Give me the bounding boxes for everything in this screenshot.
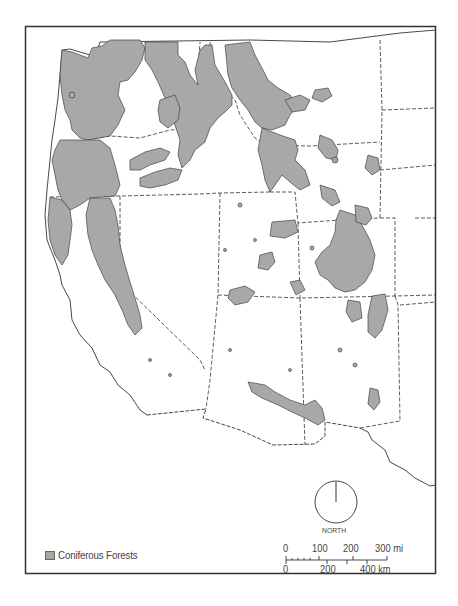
map-canvas — [0, 0, 458, 606]
legend-label: Coniferous Forests — [58, 549, 138, 561]
north-label: NORTH — [322, 526, 346, 535]
scale-mi-300: 300 mi — [375, 542, 403, 554]
coniferous-forests — [48, 40, 388, 425]
rio-grande — [360, 428, 436, 486]
scale-mi-200: 200 — [343, 542, 359, 554]
legend: Coniferous Forests — [45, 549, 152, 561]
scale-mi-0: 0 — [283, 542, 288, 554]
scale-km-200: 200 — [320, 563, 336, 575]
scale-km-0: 0 — [283, 563, 288, 575]
legend-swatch-coniferous — [45, 551, 55, 560]
north-arrow — [315, 481, 357, 523]
mexico-border — [147, 409, 360, 445]
scale-km-400: 400 km — [360, 563, 391, 575]
scale-mi-100: 100 — [312, 542, 328, 554]
